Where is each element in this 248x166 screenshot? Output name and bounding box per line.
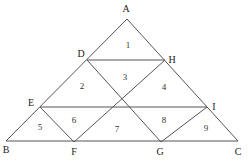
region-label-2: 2 (80, 81, 85, 91)
vertex-label-B: B (3, 144, 10, 155)
region-label-9: 9 (204, 123, 209, 133)
vertex-label-H: H (168, 54, 175, 65)
region-labels: 123456789 (38, 40, 209, 134)
segment-EF (40, 107, 74, 142)
region-label-6: 6 (72, 115, 77, 125)
vertex-label-G: G (156, 146, 163, 157)
vertex-label-F: F (71, 146, 77, 157)
vertex-label-E: E (28, 97, 34, 108)
region-label-3: 3 (123, 72, 128, 82)
vertex-label-C: C (235, 146, 242, 157)
segment-HF (74, 60, 165, 142)
triangle-diagram: ABCDEFGHI 123456789 (0, 0, 248, 166)
vertex-label-A: A (122, 3, 130, 14)
vertex-label-D: D (77, 48, 84, 59)
vertex-label-I: I (212, 101, 215, 112)
region-label-5: 5 (38, 122, 43, 132)
region-label-8: 8 (162, 115, 167, 125)
region-label-1: 1 (126, 40, 131, 50)
region-label-4: 4 (162, 82, 167, 92)
segment-IG (161, 107, 207, 142)
region-label-7: 7 (115, 124, 120, 134)
segment-AB (6, 19, 127, 141)
